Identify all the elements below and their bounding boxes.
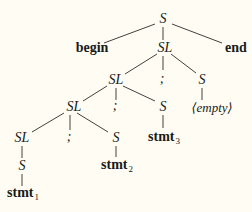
edge-S-end [172, 24, 222, 43]
edge-SL-SL3 [32, 113, 64, 132]
node-empty: ⟨empty⟩ [191, 101, 232, 114]
node-SL-1: SL [158, 41, 173, 55]
edge-S-begin [104, 24, 155, 43]
node-end: end [225, 41, 247, 55]
node-stmt1: stmt1 [7, 186, 39, 202]
node-SL-4: SL [15, 131, 30, 145]
stmt3-label: stmt [148, 129, 174, 144]
node-S-empty-parent: S [199, 73, 206, 87]
node-S-3: S [160, 100, 167, 114]
edge-SL-S2 [123, 86, 155, 101]
node-semicolon-2: ; [113, 99, 118, 113]
node-stmt2: stmt2 [101, 158, 133, 174]
node-S-2: S [113, 131, 120, 145]
edge-SL-S3 [77, 113, 108, 132]
stmt2-subscript: 2 [128, 164, 133, 174]
edge-SL-S [171, 54, 196, 73]
node-SL-3: SL [67, 100, 82, 114]
edge-SL-SL [125, 54, 157, 74]
node-begin: begin [76, 41, 109, 55]
stmt2-label: stmt [101, 157, 127, 172]
stmt1-label: stmt [7, 185, 33, 200]
stmt1-subscript: 1 [34, 192, 39, 202]
node-semicolon-1: ; [160, 72, 165, 86]
node-S-1: S [19, 159, 26, 173]
node-root-S: S [160, 12, 167, 26]
node-semicolon-3: ; [67, 130, 72, 144]
edge-SL-SL2 [83, 86, 107, 101]
node-stmt3: stmt3 [148, 130, 180, 146]
stmt3-subscript: 3 [175, 136, 180, 146]
node-SL-2: SL [109, 73, 124, 87]
